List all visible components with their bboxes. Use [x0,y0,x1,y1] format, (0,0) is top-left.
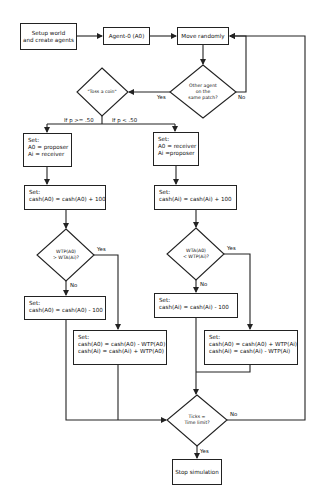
right-decision-yes-label: Yes [227,245,236,251]
right-roles-line-2: A0 = receiver [158,143,198,150]
right-decision-line-2: < WTP(Ai)? [183,254,209,260]
other-agent-line-3: same patch? [188,95,217,101]
left-cash-plus-box: Set: cash(A0) = cash(A0) + 100 [24,185,106,210]
left-decision-yes-label: Yes [97,246,106,252]
right-trade-line-1: Set: [209,334,297,341]
stop-simulation-label: Stop simulation [175,469,219,476]
setup-line-2: and create agents [23,37,74,44]
ticks-line-2: Time limit? [184,420,209,426]
right-cash-minus-box: Set: cash(Ai) = cash(Ai) - 100 [154,293,238,318]
p-low-label: If p < .50 [112,117,137,123]
toss-coin-text: "Toss a coin" [87,89,116,94]
setup-world-box: Setup world and create agents [20,23,77,50]
stop-simulation-box: Stop simulation [172,459,222,485]
agent-0-box: Agent-0 (A0) [103,27,150,45]
other-agent-yes-label: Yes [157,94,166,100]
right-set-roles-box: Set: A0 = receiver Ai =proposer [153,132,199,166]
left-set-roles-box: Set: A0 = proposer Ai = receiver [23,133,72,167]
right-cash-minus-line-1: Set: [159,297,237,304]
left-cash-minus-line-1: Set: [29,300,105,307]
move-randomly-box: Move randomly [177,27,229,45]
right-cash-minus-line-2: cash(Ai) = cash(Ai) - 100 [159,304,237,311]
left-cash-minus-box: Set: cash(A0) = cash(A0) - 100 [24,296,106,320]
left-decision-line-2: > WTA(Ai)? [53,255,79,261]
left-wtp-decision-label: WTP(A0) > WTA(Ai)? [53,249,79,261]
right-cash-plus-line-1: Set: [159,189,236,196]
setup-line-1: Setup world [23,30,74,37]
p-high-label: If p >= .50 [64,117,94,123]
left-roles-line-1: Set: [28,137,71,144]
right-decision-no-label: No [200,281,207,287]
right-trade-line-2: cash(A0) = cash(A0) + WTP(Ai) [209,341,297,348]
left-trade-line-2: cash(A0) = cash(A0) - WTP(A0) [78,341,166,348]
left-decision-no-label: No [70,282,77,288]
ticks-decision-label: Ticks = Time limit? [184,414,209,426]
left-cash-plus-line-1: Set: [29,189,105,196]
other-agent-decision-label: Other agent on the same patch? [188,83,217,101]
toss-coin-decision-label: "Toss a coin" [87,89,116,95]
left-cash-plus-line-2: cash(A0) = cash(A0) + 100 [29,196,105,203]
right-trade-line-3: cash(Ai) = cash(Ai) - WTP(Ai) [209,348,297,355]
left-trade-line-1: Set: [78,334,166,341]
ticks-yes-label: Yes [200,448,209,454]
right-roles-line-1: Set: [158,136,198,143]
left-trade-box: Set: cash(A0) = cash(A0) - WTP(A0) cash(… [73,330,167,365]
other-agent-no-label: No [238,94,245,100]
left-roles-line-2: A0 = proposer [28,144,71,151]
right-cash-plus-line-2: cash(Ai) = cash(Ai) + 100 [159,196,236,203]
left-cash-minus-line-2: cash(A0) = cash(A0) - 100 [29,307,105,314]
right-trade-box: Set: cash(A0) = cash(A0) + WTP(Ai) cash(… [204,330,298,365]
left-roles-line-3: Ai = receiver [28,151,71,158]
right-roles-line-3: Ai =proposer [158,150,198,157]
agent-0-label: Agent-0 (A0) [109,33,145,40]
right-cash-plus-box: Set: cash(Ai) = cash(Ai) + 100 [154,185,237,210]
connector-lines [0,0,320,503]
move-randomly-label: Move randomly [181,33,224,40]
right-wta-decision-label: WTA(A0) < WTP(Ai)? [183,248,209,260]
left-trade-line-3: cash(Ai) = cash(Ai) + WTP(A0) [78,348,166,355]
ticks-no-label: No [230,411,237,417]
